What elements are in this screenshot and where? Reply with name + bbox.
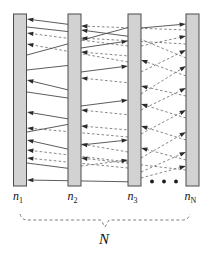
ellipsis-dot-1 xyxy=(150,180,154,184)
link-solid-12 xyxy=(27,24,141,55)
link-dashed-32 xyxy=(141,88,186,110)
arrow-head xyxy=(179,110,186,115)
arrow-head xyxy=(141,148,148,152)
link-line xyxy=(81,42,122,48)
link-dashed-30 xyxy=(141,66,186,94)
link-line xyxy=(141,135,180,158)
arrow-head xyxy=(141,126,148,130)
node-bars-layer xyxy=(14,14,200,186)
node-label-n2: n2 xyxy=(68,189,78,205)
arrow-head xyxy=(81,108,88,112)
arrow-head xyxy=(27,111,34,115)
link-dashed-29 xyxy=(141,60,186,76)
link-line xyxy=(27,65,75,70)
link-solid-20 xyxy=(81,99,128,106)
link-line xyxy=(141,25,180,28)
link-dashed-27 xyxy=(141,35,186,46)
arrow-head xyxy=(27,156,34,160)
link-solid-18 xyxy=(81,65,128,72)
link-solid-23 xyxy=(81,138,128,145)
brace-path xyxy=(20,214,190,227)
arrow-head xyxy=(27,79,34,83)
arrow-head xyxy=(27,126,34,130)
arrow-head xyxy=(121,159,128,163)
arrow-head xyxy=(121,138,128,142)
arrow-head xyxy=(179,166,186,170)
link-line xyxy=(147,150,186,160)
arrow-head xyxy=(27,43,34,47)
link-dashed-28 xyxy=(141,50,186,72)
arrow-head xyxy=(179,66,186,71)
link-line xyxy=(27,27,75,32)
node-label-nN: nN xyxy=(185,189,197,205)
link-dashed-31 xyxy=(141,85,186,96)
ellipsis-dot-3 xyxy=(174,180,178,184)
node-bar-nN[interactable] xyxy=(186,14,199,186)
link-dashed-34 xyxy=(141,110,186,134)
figure-container: n1n2n3nN N xyxy=(0,0,209,258)
link-solid-26 xyxy=(141,22,186,28)
link-dashed-36 xyxy=(141,132,186,158)
arrow-head xyxy=(141,85,148,89)
arrow-head xyxy=(179,132,186,137)
arrow-head xyxy=(179,88,186,93)
node-label-n1: n1 xyxy=(13,189,23,205)
arrow-head xyxy=(27,139,34,143)
link-line xyxy=(87,145,128,152)
node-label-n3: n3 xyxy=(128,189,138,205)
node-bar-n1[interactable] xyxy=(14,14,27,186)
link-dashed-33 xyxy=(141,104,186,118)
arrow-head xyxy=(179,35,186,39)
link-dashed-35 xyxy=(141,126,186,140)
link-dashed-37 xyxy=(141,148,186,160)
node-labels-layer: n1n2n3nN xyxy=(13,189,197,205)
arrow-head xyxy=(27,32,34,36)
link-line xyxy=(81,161,122,166)
arrow-head xyxy=(179,22,186,26)
arrow-head xyxy=(27,18,34,22)
ellipsis-dots xyxy=(150,180,178,184)
brace-label-N: N xyxy=(98,231,110,247)
link-line xyxy=(33,180,141,182)
link-line xyxy=(81,67,122,72)
link-dashed-39 xyxy=(141,166,186,178)
arrow-head xyxy=(121,65,128,69)
span-brace: N xyxy=(20,214,190,247)
link-line xyxy=(81,101,122,106)
arrow-head xyxy=(81,124,88,128)
node-bar-n3[interactable] xyxy=(128,14,141,186)
ellipsis-dot-2 xyxy=(162,180,166,184)
arrow-head xyxy=(81,29,88,33)
link-line xyxy=(141,113,180,134)
node-interconnection-diagram: n1n2n3nN N xyxy=(0,0,209,258)
link-dashed-42 xyxy=(81,159,128,166)
links-layer xyxy=(27,18,186,183)
link-line xyxy=(134,36,186,58)
arrow-head xyxy=(27,178,33,182)
link-line xyxy=(147,87,186,96)
arrow-head xyxy=(121,99,128,103)
arrow-head xyxy=(179,50,186,55)
arrow-head xyxy=(179,152,186,157)
arrow-head xyxy=(141,60,148,64)
arrow-head xyxy=(27,149,34,153)
link-line xyxy=(147,62,186,76)
arrow-head xyxy=(81,24,87,28)
link-solid-11 xyxy=(27,178,141,182)
node-bar-n2[interactable] xyxy=(68,14,81,186)
arrow-head xyxy=(81,76,88,80)
